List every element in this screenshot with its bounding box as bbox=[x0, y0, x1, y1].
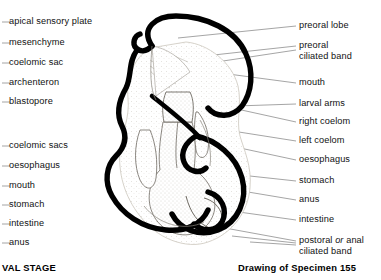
label-anus-right: anus bbox=[299, 194, 319, 205]
label-text: mesenchyme bbox=[9, 37, 65, 47]
label-text: right coelom bbox=[299, 116, 350, 126]
label-text-italic: or bbox=[335, 235, 343, 245]
label-coelomic-sacs: coelomic sacs bbox=[9, 140, 68, 151]
label-apical-sensory-plate: apical sensory plate bbox=[9, 16, 92, 27]
label-stomach-left: stomach bbox=[9, 199, 44, 210]
label-text: preoral bbox=[299, 40, 328, 50]
label-text-line2: ciliated band bbox=[299, 51, 352, 61]
label-text: archenteron bbox=[9, 77, 59, 87]
label-text: apical sensory plate bbox=[9, 16, 92, 26]
label-intestine-left: intestine bbox=[9, 218, 44, 229]
label-text: intestine bbox=[299, 214, 334, 224]
label-text-tail: anal bbox=[346, 235, 364, 245]
label-mouth-left: mouth bbox=[9, 180, 35, 191]
label-text: coelomic sac bbox=[9, 57, 63, 67]
label-right-coelom: right coelom bbox=[299, 116, 350, 127]
label-oesophagus-left: oesophagus bbox=[9, 160, 60, 171]
label-left-coelom: left coelom bbox=[299, 135, 345, 146]
label-text: stomach bbox=[9, 199, 44, 209]
label-text: coelomic sacs bbox=[9, 140, 68, 150]
label-preoral-lobe: preoral lobe bbox=[299, 20, 349, 31]
label-blastopore: blastopore bbox=[9, 96, 53, 107]
label-text: stomach bbox=[299, 175, 334, 185]
label-text: anus bbox=[9, 237, 29, 247]
label-stomach-right: stomach bbox=[299, 175, 334, 186]
label-text: larval arms bbox=[299, 98, 345, 108]
label-coelomic-sac: coelomic sac bbox=[9, 57, 63, 68]
caption-specimen: Drawing of Specimen 155 bbox=[238, 262, 356, 273]
label-intestine-right: intestine bbox=[299, 214, 334, 225]
caption-larval-stage: VAL STAGE bbox=[2, 262, 56, 273]
label-mouth-right: mouth bbox=[299, 77, 325, 88]
label-archenteron: archenteron bbox=[9, 77, 59, 88]
label-text: left coelom bbox=[299, 135, 345, 145]
label-text: anus bbox=[299, 194, 319, 204]
label-text: postoral bbox=[299, 235, 333, 245]
label-text: mouth bbox=[9, 180, 35, 190]
figure-canvas: apical sensory plate mesenchyme coelomic… bbox=[0, 0, 381, 280]
label-text: blastopore bbox=[9, 96, 53, 106]
label-preoral-ciliated-band: preoral ciliated band bbox=[299, 40, 352, 61]
label-text-line2: ciliated band bbox=[299, 246, 352, 256]
label-larval-arms: larval arms bbox=[299, 98, 345, 109]
label-text: oesophagus bbox=[9, 160, 60, 170]
label-text: preoral lobe bbox=[299, 20, 349, 30]
label-text: mouth bbox=[299, 77, 325, 87]
label-mesenchyme: mesenchyme bbox=[9, 37, 65, 48]
label-postoral-anal-ciliated-band: postoral or anal ciliated band bbox=[299, 235, 364, 256]
label-text: intestine bbox=[9, 218, 44, 228]
label-anus-left: anus bbox=[9, 237, 29, 248]
label-oesophagus-right: oesophagus bbox=[299, 154, 350, 165]
label-text: oesophagus bbox=[299, 154, 350, 164]
